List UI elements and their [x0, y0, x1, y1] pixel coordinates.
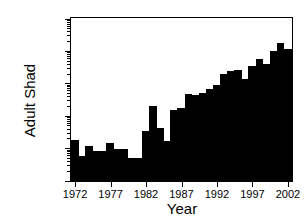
x-axis-ticks: 1972197719821987199219972002: [70, 182, 293, 202]
x-tick-mark: [288, 182, 289, 187]
bar: [284, 49, 292, 181]
y-axis-title: Adult Shad: [21, 16, 38, 186]
x-tick-mark: [146, 182, 147, 187]
x-tick-mark: [75, 182, 76, 187]
chart-figure: Adult Shad 101001000100001000001000000 1…: [0, 0, 306, 224]
x-axis-title: Year: [70, 200, 294, 217]
bar-series: [71, 18, 292, 181]
plot-area: [70, 17, 293, 182]
x-tick-mark: [182, 182, 183, 187]
x-tick-mark: [217, 182, 218, 187]
x-tick-mark: [252, 182, 253, 187]
x-tick-label: 2002: [258, 188, 306, 200]
x-tick-mark: [111, 182, 112, 187]
